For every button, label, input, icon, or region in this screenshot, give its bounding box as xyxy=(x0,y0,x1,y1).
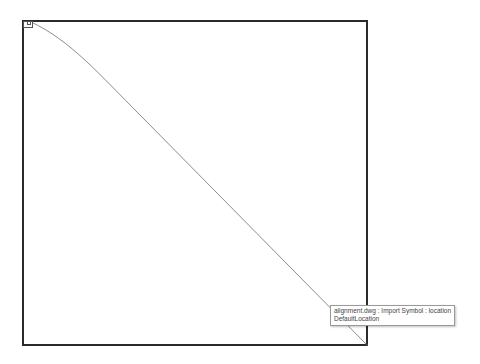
tooltip-line-2: DefaultLocation xyxy=(334,315,451,323)
hover-tooltip: alignment.dwg : Import Symbol : location… xyxy=(330,305,455,326)
location-symbol-icon xyxy=(27,21,31,25)
tooltip-line-1: alignment.dwg : Import Symbol : location xyxy=(334,307,451,315)
drawing-canvas[interactable]: alignment.dwg : Import Symbol : location… xyxy=(0,0,480,364)
